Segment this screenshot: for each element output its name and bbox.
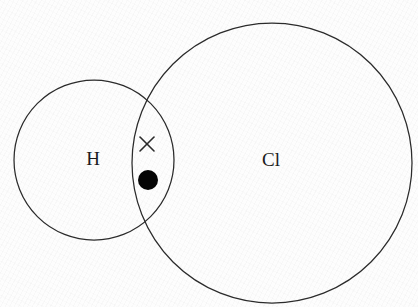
chlorine-atom-label: Cl [262, 150, 280, 169]
cross-electron-icon [140, 137, 154, 151]
dot-and-cross-diagram: H Cl [0, 0, 418, 307]
electron-shell-drawing [0, 0, 418, 307]
dot-electron-icon [138, 170, 158, 190]
hydrogen-atom-label: H [86, 149, 100, 168]
